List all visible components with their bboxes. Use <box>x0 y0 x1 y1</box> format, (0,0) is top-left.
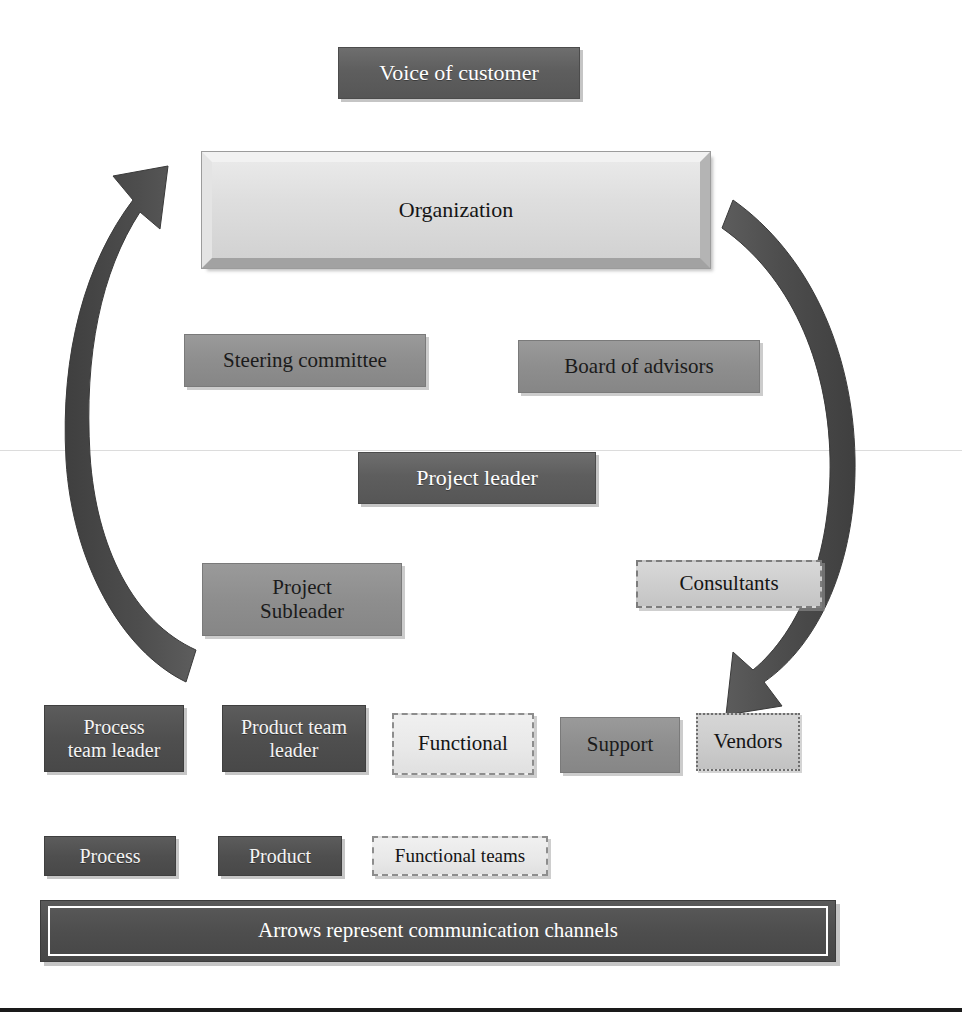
node-functional[interactable]: Functional <box>392 713 534 775</box>
node-label: Process team leader <box>45 716 183 761</box>
caption-inner-frame: Arrows represent communication channels <box>48 906 828 956</box>
right-communication-arrow <box>722 200 855 715</box>
diagram-caption-bar: Arrows represent communication channels <box>40 900 836 962</box>
node-support[interactable]: Support <box>560 717 680 773</box>
node-consultants[interactable]: Consultants <box>636 560 822 608</box>
diagram-caption-text: Arrows represent communication channels <box>50 919 826 943</box>
node-label: Project leader <box>359 466 595 491</box>
node-label: Consultants <box>638 572 820 596</box>
page-hairline <box>0 450 962 451</box>
node-product-team-leader[interactable]: Product team leader <box>222 705 366 772</box>
node-label: Functional <box>394 732 532 756</box>
node-label: Organization <box>212 198 700 223</box>
node-process[interactable]: Process <box>44 836 176 876</box>
node-voice-of-customer[interactable]: Voice of customer <box>338 47 580 99</box>
organization-diagram: Voice of customer Organization Steering … <box>0 0 962 1030</box>
node-label: Vendors <box>698 730 798 754</box>
node-label: Process <box>45 845 175 867</box>
node-functional-teams[interactable]: Functional teams <box>372 836 548 876</box>
node-vendors[interactable]: Vendors <box>696 713 800 771</box>
node-label: Voice of customer <box>339 61 579 86</box>
node-label: Functional teams <box>374 845 546 866</box>
node-project-subleader[interactable]: Project Subleader <box>202 563 402 636</box>
node-label: Product <box>219 845 341 867</box>
node-label: Product team leader <box>223 716 365 761</box>
node-process-team-leader[interactable]: Process team leader <box>44 705 184 772</box>
node-project-leader[interactable]: Project leader <box>358 452 596 504</box>
node-label: Support <box>561 733 679 757</box>
left-communication-arrow <box>65 166 196 682</box>
node-steering-committee[interactable]: Steering committee <box>184 334 426 387</box>
node-board-of-advisors[interactable]: Board of advisors <box>518 340 760 393</box>
node-label: Project Subleader <box>203 576 401 623</box>
node-label: Board of advisors <box>519 355 759 379</box>
node-organization[interactable]: Organization <box>202 152 710 268</box>
node-label: Steering committee <box>185 349 425 373</box>
page-bottom-rule <box>0 1008 962 1012</box>
node-product[interactable]: Product <box>218 836 342 876</box>
